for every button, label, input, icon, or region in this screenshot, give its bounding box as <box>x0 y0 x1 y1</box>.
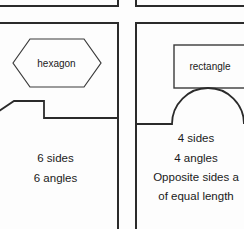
rectangle-facts: 4 sides 4 angles Opposite sides a of equ… <box>137 128 244 206</box>
worksheet-page: hexagon rectangle 6 sides 6 angles 4 sid… <box>0 0 244 229</box>
rectangle-fact-angles: 4 angles <box>137 148 244 168</box>
hexagon-fact-angles: 6 angles <box>0 168 117 188</box>
rectangle-shape-label: rectangle <box>172 61 244 72</box>
panel-top-left-fragment <box>0 0 119 7</box>
rectangle-fact-sides: 4 sides <box>137 128 244 148</box>
rectangle-note-line-1: Opposite sides a <box>137 168 244 187</box>
hexagon-shape-label: hexagon <box>13 58 100 69</box>
hexagon-fact-sides: 6 sides <box>0 148 117 168</box>
rectangle-note-line-2: of equal length <box>137 187 244 206</box>
hexagon-facts: 6 sides 6 angles <box>0 148 117 188</box>
panel-top-right-fragment <box>135 0 244 7</box>
hexagon-card-frame <box>0 22 119 229</box>
